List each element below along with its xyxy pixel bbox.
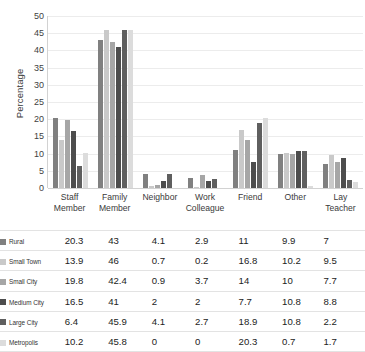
bar	[167, 174, 172, 188]
series-label: Large City	[9, 319, 38, 326]
bar	[335, 162, 340, 188]
y-axis-tick-label: 10	[22, 149, 44, 158]
bar	[341, 158, 346, 188]
table-cell: 4.1	[152, 311, 195, 331]
bar	[347, 180, 352, 188]
table-cell: 10.2	[65, 331, 108, 351]
table-row: Rural20.3434.12.9119.97	[0, 231, 365, 251]
series-label: Small Town	[9, 258, 41, 265]
y-axis-tick-label: 15	[22, 132, 44, 141]
table-cell: 41	[108, 291, 151, 311]
bar	[257, 123, 262, 188]
x-axis-label: FamilyMember	[92, 192, 137, 214]
bar	[53, 118, 58, 188]
bar	[323, 164, 328, 188]
bar	[98, 40, 103, 188]
table-cell: 0.7	[152, 251, 195, 271]
table-cell: 0.2	[195, 251, 238, 271]
bar-group	[318, 16, 363, 188]
table-cell: 45.8	[108, 331, 151, 351]
bar	[290, 154, 295, 188]
y-axis-tick-label: 35	[22, 63, 44, 72]
table-cell: 10.2	[282, 251, 323, 271]
legend-swatch-icon	[0, 340, 6, 346]
legend-swatch-icon	[0, 299, 6, 305]
series-legend-cell: Large City	[0, 311, 65, 331]
table-cell: 3.7	[195, 271, 238, 291]
table-row: Medium City16.541227.710.88.8	[0, 291, 365, 311]
axis-baseline	[48, 188, 363, 189]
bar-group	[273, 16, 318, 188]
y-axis-tick-label: 45	[22, 29, 44, 38]
table-cell: 0.9	[152, 271, 195, 291]
table-cell: 9.9	[282, 231, 323, 251]
bar	[128, 30, 133, 188]
table-cell: 2.2	[324, 311, 365, 331]
table-cell: 7.7	[239, 291, 282, 311]
bar	[59, 140, 64, 188]
table-cell: 13.9	[65, 251, 108, 271]
bar-group	[138, 16, 183, 188]
series-legend-cell: Medium City	[0, 291, 65, 311]
series-label: Rural	[9, 238, 24, 245]
bar	[122, 30, 127, 188]
table-row: Small City19.842.40.93.714107.7	[0, 271, 365, 291]
bar	[65, 120, 70, 188]
bar	[194, 187, 199, 188]
bar	[278, 154, 283, 188]
table-row: Large City6.445.94.12.718.910.82.2	[0, 311, 365, 331]
bar	[296, 151, 301, 188]
table-row: Metropolis10.245.80020.30.71.7	[0, 331, 365, 351]
table-cell: 2	[195, 291, 238, 311]
legend-swatch-icon	[0, 319, 6, 325]
bar	[155, 185, 160, 188]
table-cell: 16.5	[65, 291, 108, 311]
legend-swatch-icon	[0, 239, 6, 245]
bar	[329, 155, 334, 188]
table-cell: 19.8	[65, 271, 108, 291]
table-cell: 6.4	[65, 311, 108, 331]
series-legend-cell: Metropolis	[0, 331, 65, 351]
bar	[83, 153, 88, 188]
bar	[302, 151, 307, 188]
y-axis-tick-label: 25	[22, 98, 44, 107]
bar-groups	[48, 16, 363, 188]
x-axis-label: WorkColleague	[182, 192, 227, 214]
bar	[143, 174, 148, 188]
table-cell: 14	[239, 271, 282, 291]
bar	[251, 162, 256, 188]
bar-group	[183, 16, 228, 188]
y-axis-tick-label: 20	[22, 115, 44, 124]
plot-area	[47, 16, 363, 188]
table-cell: 0.7	[282, 331, 323, 351]
table-cell: 8.8	[324, 291, 365, 311]
table-cell: 11	[239, 231, 282, 251]
table-cell: 10.8	[282, 291, 323, 311]
table-cell: 20.3	[65, 231, 108, 251]
bar	[212, 179, 217, 188]
x-axis-label: Friend	[228, 192, 273, 214]
bar-group	[48, 16, 93, 188]
x-axis-label: StaffMember	[47, 192, 92, 214]
table-cell: 18.9	[239, 311, 282, 331]
bar	[200, 175, 205, 188]
bar	[71, 131, 76, 188]
y-axis-tick-label: 30	[22, 80, 44, 89]
table-cell: 2	[152, 291, 195, 311]
series-legend-cell: Small City	[0, 271, 65, 291]
table-cell: 42.4	[108, 271, 151, 291]
table-cell: 10.8	[282, 311, 323, 331]
table-cell: 2.9	[195, 231, 238, 251]
bar	[308, 186, 313, 188]
bar	[245, 140, 250, 188]
bar	[77, 166, 82, 188]
y-axis-ticks: 05101520253035404550	[22, 16, 44, 188]
table-cell: 46	[108, 251, 151, 271]
table-cell: 7.7	[324, 271, 365, 291]
x-axis-label: Neighbor	[137, 192, 182, 214]
bar	[353, 182, 358, 188]
bar	[239, 130, 244, 188]
table-cell: 9.5	[324, 251, 365, 271]
bar-chart: Percentage 05101520253035404550 StaffMem…	[0, 0, 365, 228]
